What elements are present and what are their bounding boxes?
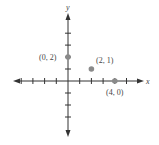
coordinate-plane: x y (0, 2) (2, 1) (4, 0): [0, 0, 159, 145]
y-axis-label: y: [65, 3, 70, 12]
x-axis-right-arrow-icon: [137, 79, 144, 84]
point-label-0-2: (0, 2): [39, 53, 57, 62]
point-4-0: [112, 78, 118, 84]
y-axis-up-arrow-icon: [66, 13, 71, 20]
x-axis-label: x: [145, 77, 150, 86]
point-2-1: [89, 66, 95, 72]
point-label-2-1: (2, 1): [96, 56, 114, 65]
x-axis-left-arrow-icon: [13, 79, 20, 84]
x-axis: x: [13, 77, 150, 86]
y-axis-down-arrow-icon: [66, 130, 71, 137]
y-axis: y: [65, 3, 71, 137]
point-0-2: [65, 54, 71, 60]
point-label-4-0: (4, 0): [106, 88, 124, 97]
